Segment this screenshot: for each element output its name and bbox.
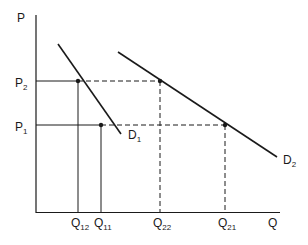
demand-diagram: P Q P2 P1 D1 D2 Q12 Q11 Q22 Q21 xyxy=(0,0,308,245)
point-d1-p2 xyxy=(76,79,80,83)
y-axis-label: P xyxy=(17,11,25,25)
quantity-label-q21: Q21 xyxy=(218,216,237,232)
price-label-p1: P1 xyxy=(15,120,28,136)
point-d2-p2 xyxy=(158,79,162,83)
x-axis-label: Q xyxy=(268,216,277,230)
quantity-label-q12: Q12 xyxy=(71,216,90,232)
curve-label-d1: D1 xyxy=(128,128,142,144)
quantity-label-q22: Q22 xyxy=(153,216,172,232)
point-d1-p1 xyxy=(99,123,103,127)
quantity-label-q11: Q11 xyxy=(94,216,112,232)
demand-curve-d2 xyxy=(118,52,277,157)
curve-label-d2: D2 xyxy=(283,153,297,169)
demand-curve-d1 xyxy=(58,44,121,134)
price-label-p2: P2 xyxy=(15,76,28,92)
point-d2-p1 xyxy=(223,123,227,127)
